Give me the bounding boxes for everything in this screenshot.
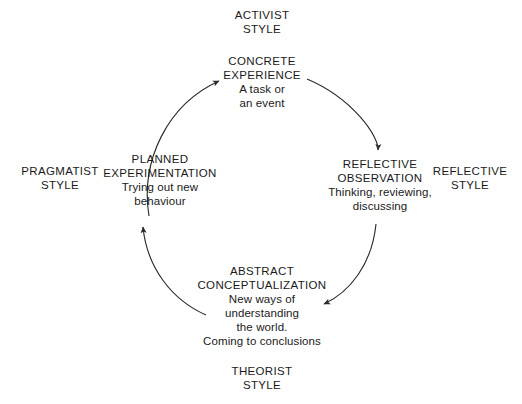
stage-abstract-desc-line-3: the world. [184,320,340,334]
stage-concrete-title-line-2: EXPERIENCE [192,68,332,82]
stage-planned-desc-line-1: Trying out new [100,180,220,194]
style-activist-line-2: STYLE [196,22,328,36]
style-label-pragmatist: PRAGMATIST STYLE [10,164,110,192]
stage-planned-experimentation: PLANNED EXPERIMENTATION Trying out new b… [100,152,220,208]
style-activist-line-1: ACTIVIST [196,8,328,22]
stage-abstract-conceptualization: ABSTRACT CONCEPTUALIZATION New ways of u… [184,264,340,348]
style-label-activist: ACTIVIST STYLE [196,8,328,36]
stage-abstract-title-line-1: ABSTRACT [184,264,340,278]
stage-concrete-experience: CONCRETE EXPERIENCE A task or an event [192,54,332,110]
stage-planned-title-line-2: EXPERIMENTATION [100,166,220,180]
stage-reflective-desc-line-1: Thinking, reviewing, [316,185,444,199]
style-theorist-line-2: STYLE [196,378,328,392]
stage-planned-title-line-1: PLANNED [100,152,220,166]
learning-cycle-diagram: ACTIVIST STYLE REFLECTIVE STYLE THEORIST… [0,0,522,404]
stage-planned-desc-line-2: behaviour [100,194,220,208]
stage-abstract-title-line-2: CONCEPTUALIZATION [184,278,340,292]
stage-concrete-desc-line-2: an event [192,96,332,110]
stage-abstract-desc-line-2: understanding [184,306,340,320]
style-pragmatist-line-1: PRAGMATIST [10,164,110,178]
stage-concrete-title-line-1: CONCRETE [192,54,332,68]
stage-concrete-desc-line-1: A task or [192,82,332,96]
style-theorist-line-1: THEORIST [196,364,328,378]
stage-reflective-desc-line-2: discussing [316,199,444,213]
stage-abstract-desc-line-4: Coming to conclusions [184,334,340,348]
stage-reflective-title-line-2: OBSERVATION [316,171,444,185]
style-pragmatist-line-2: STYLE [10,178,110,192]
stage-abstract-desc-line-1: New ways of [184,292,340,306]
stage-reflective-observation: REFLECTIVE OBSERVATION Thinking, reviewi… [316,157,444,213]
stage-reflective-title-line-1: REFLECTIVE [316,157,444,171]
style-label-theorist: THEORIST STYLE [196,364,328,392]
